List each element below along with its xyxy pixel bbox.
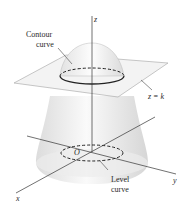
x-axis-label: x — [16, 194, 20, 203]
origin-label: O — [74, 148, 80, 157]
contour-label-line1: Contour — [26, 30, 52, 39]
contour-label-line2: curve — [36, 40, 54, 49]
plane-leader-line — [141, 80, 152, 90]
z-axis-label: z — [94, 15, 97, 24]
y-axis-label: y — [173, 176, 177, 185]
plane-label: z = k — [148, 92, 164, 101]
level-label-line1: Level — [111, 175, 129, 184]
level-label-line2: curve — [111, 185, 129, 194]
